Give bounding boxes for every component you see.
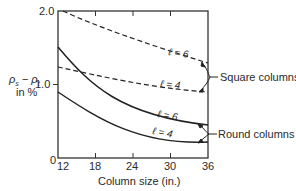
x-tick-12: 12: [57, 160, 69, 172]
x-tick-36: 36: [202, 160, 214, 172]
y-axis-title: ρs − ρt: [8, 73, 41, 87]
label-round-l6: ℓ = 6: [156, 108, 179, 123]
square-columns-label: Square columns: [220, 71, 296, 83]
label-square-l4: ℓ = 4: [159, 78, 182, 91]
y-tick-0: 0: [50, 154, 56, 166]
y-axis-title-line2: in %: [16, 86, 38, 98]
x-tick-18: 18: [89, 160, 101, 172]
x-axis-title: Column size (in.): [98, 175, 181, 187]
y-tick-2: 2.0: [39, 5, 54, 17]
chart: 12 18 24 30 36 0 1.0 2.0 Column size (in…: [0, 0, 296, 191]
curve-round-l4: [58, 92, 208, 142]
curve-square-l4: [58, 67, 208, 92]
x-tick-30: 30: [164, 160, 176, 172]
round-columns-label: Round columns: [218, 128, 295, 140]
x-tick-24: 24: [126, 160, 138, 172]
label-square-l6: ℓ = 6: [167, 46, 190, 60]
plot-frame: [58, 11, 208, 158]
